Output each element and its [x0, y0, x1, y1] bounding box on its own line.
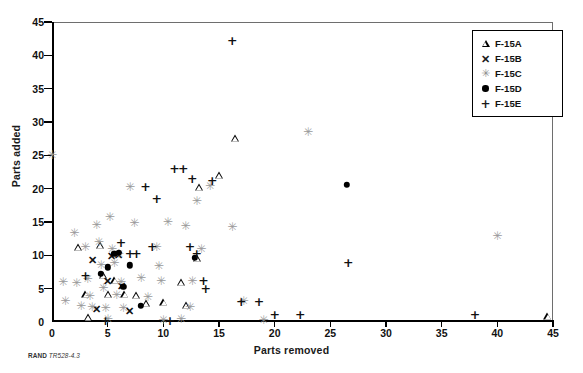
- x-tick-label: 25: [315, 327, 345, 339]
- plus-icon: +: [478, 96, 493, 111]
- x-tick-label: 20: [260, 327, 290, 339]
- y-tick-label: 40: [10, 49, 44, 61]
- x-tick: [385, 320, 386, 327]
- x-tick-label: 35: [427, 327, 457, 339]
- legend-item-f-15c: ✳F-15C: [478, 66, 556, 81]
- legend-label: F-15E: [493, 98, 521, 109]
- y-axis-label: Parts added: [10, 96, 22, 216]
- y-tick: [44, 288, 52, 289]
- caption-org: RAND: [28, 352, 47, 359]
- caption-id: TR528-4.3: [49, 352, 80, 359]
- y-tick: [44, 55, 52, 56]
- y-tick: [44, 121, 52, 122]
- y-tick: [44, 21, 52, 22]
- x-tick-label: 15: [204, 327, 234, 339]
- legend-item-f-15d: F-15D: [478, 81, 556, 96]
- y-axis-line: [52, 22, 54, 322]
- y-tick-label: 10: [10, 249, 44, 261]
- y-tick-label: 35: [10, 83, 44, 95]
- legend: F-15A✕F-15B✳F-15CF-15D+F-15E: [472, 30, 563, 117]
- y-tick: [44, 221, 52, 222]
- y-tick-label: 45: [10, 16, 44, 28]
- y-tick-label: 15: [10, 216, 44, 228]
- x-tick-label: 45: [538, 327, 568, 339]
- filled-circle-icon: [478, 81, 493, 96]
- legend-label: F-15B: [493, 53, 522, 64]
- legend-label: F-15A: [493, 38, 522, 49]
- legend-item-f-15e: +F-15E: [478, 96, 556, 111]
- x-axis-label: Parts removed: [0, 344, 583, 356]
- y-tick: [44, 255, 52, 256]
- x-tick: [552, 320, 553, 327]
- legend-label: F-15C: [493, 68, 522, 79]
- y-tick: [44, 188, 52, 189]
- y-tick: [44, 88, 52, 89]
- legend-item-f-15a: F-15A: [478, 36, 556, 51]
- x-icon: ✕: [478, 51, 493, 66]
- y-tick-label: 5: [10, 283, 44, 295]
- scatter-plot-figure: 051015202530354045 051015202530354045 ✕✕…: [0, 0, 583, 373]
- legend-item-f-15b: ✕F-15B: [478, 51, 556, 66]
- asterisk-icon: ✳: [478, 66, 493, 81]
- x-tick-label: 10: [148, 327, 178, 339]
- legend-label: F-15D: [493, 83, 522, 94]
- x-tick-label: 40: [482, 327, 512, 339]
- x-tick: [218, 320, 219, 327]
- x-tick-label: 30: [371, 327, 401, 339]
- x-tick-label: 5: [93, 327, 123, 339]
- figure-caption: RAND TR528-4.3: [28, 352, 80, 359]
- x-tick-label: 0: [37, 327, 67, 339]
- x-tick: [441, 320, 442, 327]
- x-tick: [497, 320, 498, 327]
- x-tick: [330, 320, 331, 327]
- plot-frame-top: [52, 22, 553, 23]
- triangle-icon: [478, 36, 493, 51]
